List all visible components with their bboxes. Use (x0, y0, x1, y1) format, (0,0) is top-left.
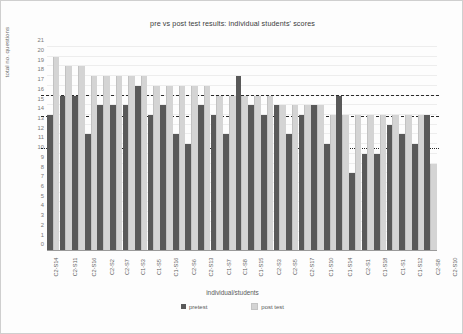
y-tick-label: 5 (41, 194, 44, 200)
bar-group (399, 47, 412, 251)
bar-post-test (317, 105, 324, 251)
y-tick-label: 15 (38, 97, 44, 103)
bar-group (85, 47, 98, 251)
y-tick-label: 21 (38, 38, 44, 44)
y-axis-label: total no. questions (3, 0, 10, 107)
y-tick-label: 3 (41, 213, 44, 219)
bar-post-test (229, 96, 236, 251)
legend-label: pretest (189, 304, 207, 310)
y-tick-label: 12 (38, 126, 44, 132)
x-tick-label: C2-S1 (365, 259, 371, 275)
bar-group (374, 47, 387, 251)
bar-group (361, 47, 374, 251)
bar-group (387, 47, 400, 251)
x-tick: C2-S7 (119, 252, 135, 292)
x-tick: C1-S8 (237, 252, 253, 292)
x-tick-label: C1-S18 (382, 258, 388, 277)
x-tick-label: C2-S16 (91, 258, 97, 277)
x-tick: C2-S13 (202, 252, 221, 292)
bar-group (122, 47, 135, 251)
bar-post-test (128, 76, 135, 251)
legend-item[interactable]: post test (251, 303, 284, 310)
x-tick-label: C2-S7 (124, 259, 130, 275)
x-tick: C2-S2 (104, 252, 120, 292)
y-tick-label: 4 (41, 203, 44, 209)
y-tick-label: 7 (41, 174, 44, 180)
x-tick: C1-S5 (151, 252, 167, 292)
chart-frame: pre vs post test results: individual stu… (0, 0, 463, 334)
x-tick-label: C1-S7 (226, 259, 232, 275)
legend-label: post test (261, 304, 284, 310)
y-tick-label: 2 (41, 223, 44, 229)
bar-post-test (53, 57, 60, 251)
x-tick-label: C2-S6 (191, 259, 197, 275)
bar-post-test (355, 115, 362, 251)
bar-post-test (216, 96, 223, 251)
bar-group (173, 47, 186, 251)
x-tick-label: C1-S16 (173, 258, 179, 277)
bar-group (336, 47, 349, 251)
bar-group (211, 47, 224, 251)
y-tick-label: 17 (38, 77, 44, 83)
x-tick: C2-S8 (430, 252, 446, 292)
x-tick: C2-S16 (85, 252, 104, 292)
bar-post-test (254, 96, 261, 251)
legend-item[interactable]: pretest (181, 303, 207, 310)
x-tick-label: C1-S12 (417, 258, 423, 277)
x-tick-label: C2-S8 (435, 259, 441, 275)
bar-post-test (65, 66, 72, 251)
bar-group (349, 47, 362, 251)
x-tick: C2-S14 (47, 252, 66, 292)
x-tick-label: C1-S1 (400, 259, 406, 275)
x-tick: C1-S16 (167, 252, 186, 292)
x-tick-label: C2-S14 (53, 258, 59, 277)
x-tick: C1-S1 (395, 252, 411, 292)
x-tick: C2-S5 (287, 252, 303, 292)
x-tick-label: C1-S10 (329, 258, 335, 277)
bar-group (286, 47, 299, 251)
y-tick-label: 1 (41, 233, 44, 239)
y-tick-label: 6 (41, 184, 44, 190)
bar-post-test (166, 86, 173, 251)
x-tick-label: C2-S3 (276, 259, 282, 275)
bar-post-test (405, 115, 412, 251)
x-tick: C2-S1 (360, 252, 376, 292)
y-tick-label: 16 (38, 87, 44, 93)
x-tick: C1-S10 (322, 252, 341, 292)
x-tick-label: C2-S10 (452, 258, 458, 277)
bar-group (97, 47, 110, 251)
bar-post-test (292, 105, 299, 251)
legend-swatch-icon (251, 303, 258, 310)
bar-post-test (418, 115, 425, 251)
bar-group (60, 47, 73, 251)
bar-post-test (141, 76, 148, 251)
bar-post-test (116, 76, 123, 251)
x-tick-label: C1-S15 (259, 258, 265, 277)
bar-post-test (267, 96, 274, 251)
y-tick-label: 20 (38, 48, 44, 54)
bar-post-test (241, 96, 248, 251)
x-axis-line (47, 250, 437, 251)
bar-post-test (380, 115, 387, 251)
bar-group (299, 47, 312, 251)
bar-post-test (153, 86, 160, 251)
y-tick-label: 8 (41, 165, 44, 171)
bar-group (160, 47, 173, 251)
x-tick: C1-S15 (252, 252, 271, 292)
x-tick: C1-S7 (221, 252, 237, 292)
bar-group (185, 47, 198, 251)
x-tick: C2-S6 (186, 252, 202, 292)
x-axis-label: individual/students (1, 289, 463, 296)
bar-post-test (179, 86, 186, 251)
bar-post-test (191, 86, 198, 251)
x-tick: C1-S12 (411, 252, 430, 292)
bar-group (110, 47, 123, 251)
bar-post-test (392, 115, 399, 251)
x-tick: C2-S17 (303, 252, 322, 292)
bar-group (412, 47, 425, 251)
y-tick-label: 14 (38, 106, 44, 112)
x-tick-label: C2-S2 (108, 259, 114, 275)
bar-post-test (204, 86, 211, 251)
y-tick-label: 11 (38, 135, 44, 141)
x-tick: C2-S3 (271, 252, 287, 292)
